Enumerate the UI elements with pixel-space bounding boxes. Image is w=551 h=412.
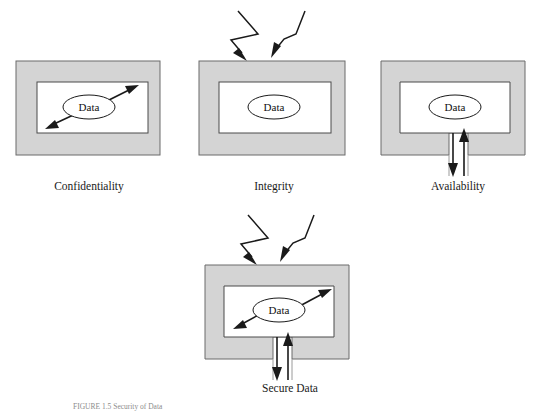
panel-secure-data: Data Secure Data — [205, 215, 349, 394]
integrity-data-label: Data — [264, 101, 285, 113]
integrity-threat-bolt-left — [231, 11, 258, 61]
figure-caption: FIGURE 1.5 Security of Data — [73, 402, 163, 411]
confidentiality-caption: Confidentiality — [54, 180, 124, 193]
integrity-threat-bolt-right — [271, 11, 305, 58]
panel-confidentiality: Data Confidentiality — [16, 61, 160, 193]
secure-data-threat-bolt-left — [241, 215, 268, 265]
security-figure: Data Confidentiality Data Integrity — [0, 0, 551, 412]
panel-integrity: Data Integrity — [199, 11, 345, 193]
availability-caption: Availability — [431, 180, 485, 193]
figure-canvas: Data Confidentiality Data Integrity — [0, 0, 551, 412]
integrity-caption: Integrity — [254, 180, 294, 193]
secure-data-threat-bolt-right — [280, 215, 314, 262]
availability-data-label: Data — [445, 101, 466, 113]
secure-data-data-label: Data — [269, 304, 290, 316]
secure-data-caption: Secure Data — [262, 382, 318, 394]
panel-availability: Data Availability — [381, 61, 525, 193]
confidentiality-data-label: Data — [79, 101, 100, 113]
